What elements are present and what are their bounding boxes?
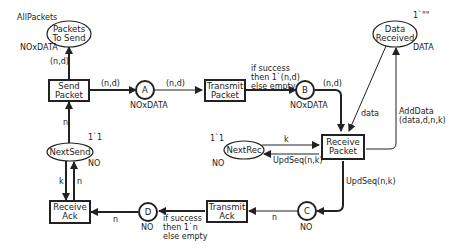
place-marking: 1`1 [210,133,224,143]
transition-receive-ack[interactable]: Receive Ack [50,201,90,223]
arc-label: (n,d) [323,79,342,88]
arc-transmit-to-B: if success then 1`(n,d) else empty [246,64,300,91]
arc-receive-to-datarec: AddData (data,d,n,k) [366,48,446,149]
transition-transmit-packet[interactable]: Transmit Packet [205,80,245,101]
svg-text:To Send: To Send [51,33,85,43]
arc-label-line2: (data,d,n,k) [399,116,446,125]
arc-nextsend-to-receiveack: k [59,161,66,200]
svg-text:Received: Received [376,33,415,43]
svg-text:Packet: Packet [211,90,239,100]
arc-label-line2: then 1`n [163,222,198,232]
arc-label: k [59,177,64,186]
arc-D-to-receiveack: n [91,212,138,224]
arc-label: n [77,177,82,186]
svg-text:D: D [145,207,152,217]
place-marking: AllPackets [17,13,57,22]
arc-label: UpdSeq(n,k) [273,156,323,165]
arc-receive-to-nextrec: UpdSeq(n,k) [264,154,323,165]
svg-text:Ack: Ack [219,211,234,221]
arc-label: n [113,215,118,224]
arc-nextsend-send: n [63,102,69,144]
place-colorset: NOxDATA [20,43,58,52]
arc-C-to-transmitack: n [249,211,297,222]
place-colorset: DATA [413,43,434,52]
cpn-diagram: (n,d) (n,d) (n,d) if success then 1`(n,d… [0,0,455,250]
arc-label-line3: else empty [251,82,296,91]
arc-nextrec-to-receive: k [262,135,319,145]
place-packets-to-send[interactable]: Packets To Send AllPackets NOxDATA [17,13,91,52]
arc-label: UpdSeq(n,k) [346,177,396,186]
place-A[interactable]: A NOxDATA [130,81,168,110]
place-marking: 1`1 [88,132,102,142]
arc-label-line2: then 1`(n,d) [251,72,300,82]
arc-label: (n,d) [166,79,185,88]
arc-label: data [361,109,379,118]
arc-label-line3: else empty [163,232,208,241]
arc-label-line1: if success [163,214,202,223]
place-next-rec[interactable]: NextRec 1`1 NO [210,133,264,168]
place-data-received[interactable]: Data Received 1`"" DATA [373,10,434,52]
svg-text:NextRec: NextRec [226,145,262,155]
transition-receive-packet[interactable]: Receive Packet [322,135,364,159]
arc-A-to-transmit: (n,d) [155,79,202,90]
transition-transmit-ack[interactable]: Transmit Ack [207,201,247,222]
place-colorset: NO [212,159,224,168]
place-colorset: NO [88,159,100,168]
svg-text:Packet: Packet [329,146,357,156]
arc-label: k [284,135,289,144]
arc-datarec-to-receive: data [349,46,386,131]
arc-receiveack-to-nextsend: n [74,162,82,200]
place-D[interactable]: D NO [139,203,157,232]
place-C[interactable]: C NO [298,202,316,232]
place-colorset: NOxDATA [130,101,168,110]
arc-receive-to-C: UpdSeq(n,k) [317,161,396,211]
svg-text:Packet: Packet [55,90,83,100]
arc-send-to-A: (n,d) [90,79,136,90]
arc-label-line1: if success [251,64,290,73]
place-colorset: NO [141,223,153,232]
svg-text:C: C [304,206,310,216]
svg-text:Ack: Ack [62,211,77,221]
svg-text:B: B [302,85,308,95]
arc-label: n [63,118,68,127]
arc-transmitack-to-D: if success then 1`n else empty [159,211,208,241]
svg-text:NextSend: NextSend [49,147,90,157]
place-marking: 1`"" [413,10,429,20]
arc-label-line1: AddData [399,107,434,116]
svg-text:A: A [142,85,148,95]
arc-label: (n,d) [50,57,69,66]
arc-label: (n,d) [101,79,120,88]
arc-label: n [272,213,277,222]
transition-send-packet[interactable]: Send Packet [49,80,89,101]
place-colorset: NOxDATA [290,101,328,110]
place-colorset: NO [300,223,312,232]
